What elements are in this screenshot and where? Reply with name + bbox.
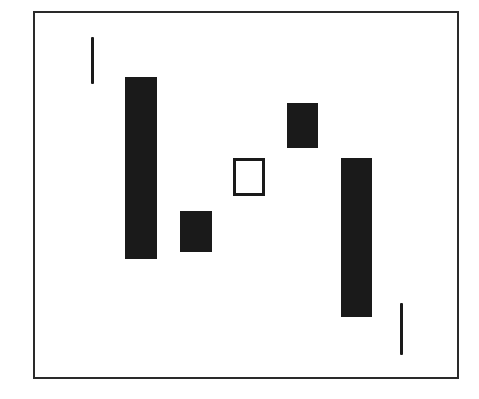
filled-candle	[125, 77, 157, 259]
hollow-candle	[233, 158, 265, 196]
filled-candle	[287, 103, 318, 148]
wick-line	[400, 303, 403, 355]
wick-line	[91, 37, 94, 84]
filled-candle	[341, 158, 372, 317]
filled-candle	[180, 211, 212, 252]
